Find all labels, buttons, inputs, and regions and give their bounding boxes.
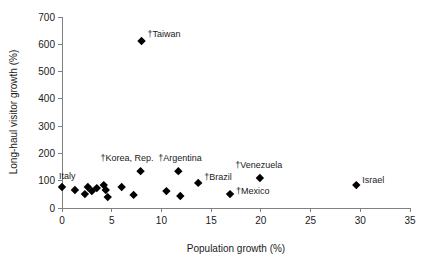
x-axis-ticks: 05101520253035 (59, 208, 416, 226)
y-tick-label: 400 (38, 93, 55, 104)
data-point-marker (104, 193, 112, 201)
y-axis-ticks: 0100200300400500600700 (38, 12, 62, 214)
data-point-marker (129, 191, 137, 199)
data-point-label: †Korea, Rep. (101, 153, 154, 163)
data-point-marker (58, 183, 66, 191)
data-point-label: †Venezuela (235, 160, 282, 170)
data-point-label: †Brazil (204, 172, 232, 182)
x-tick-label: 15 (206, 215, 218, 226)
data-point-marker (352, 181, 360, 189)
data-point-label: †Argentina (158, 153, 202, 163)
data-point-marker (136, 167, 144, 175)
data-point-marker (176, 192, 184, 200)
x-tick-label: 0 (59, 215, 65, 226)
y-tick-label: 100 (38, 175, 55, 186)
data-point-label: Israel (362, 175, 384, 185)
x-tick-label: 25 (305, 215, 317, 226)
data-point-label: †Mexico (236, 186, 270, 196)
scatter-chart: 0100200300400500600700 05101520253035 It… (0, 0, 430, 262)
y-tick-label: 600 (38, 39, 55, 50)
y-tick-label: 500 (38, 66, 55, 77)
data-point-marker (71, 186, 79, 194)
x-tick-label: 20 (255, 215, 267, 226)
data-point-marker (256, 174, 264, 182)
data-point-label: Italy (59, 171, 76, 181)
x-axis-title: Population growth (%) (187, 243, 285, 254)
data-point-marker (174, 167, 182, 175)
axes (62, 17, 410, 208)
x-tick-label: 10 (156, 215, 168, 226)
y-tick-label: 700 (38, 12, 55, 23)
data-point-label: †Taiwan (148, 29, 181, 39)
data-point-marker (137, 37, 145, 45)
y-tick-label: 300 (38, 121, 55, 132)
y-tick-label: 0 (49, 203, 55, 214)
data-point-marker (226, 190, 234, 198)
x-tick-label: 30 (355, 215, 367, 226)
y-tick-label: 200 (38, 148, 55, 159)
x-tick-label: 5 (109, 215, 115, 226)
data-point-marker (194, 179, 202, 187)
data-point-marker (162, 187, 170, 195)
x-tick-label: 35 (404, 215, 416, 226)
data-point-marker (117, 183, 125, 191)
y-axis-title: Long-haul visitor growth (%) (8, 50, 19, 175)
chart-canvas: 0100200300400500600700 05101520253035 It… (0, 0, 430, 262)
data-point-labels: Italy†Taiwan†Korea, Rep.†Argentina†Brazi… (59, 29, 384, 196)
